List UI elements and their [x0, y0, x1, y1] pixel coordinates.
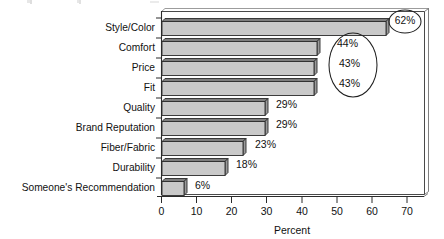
bar-quality	[162, 99, 268, 116]
category-label: Quality	[123, 102, 156, 113]
value-label: 43%	[339, 57, 360, 69]
value-label: 43%	[339, 77, 360, 89]
cropped-heading-remnant	[27, 0, 159, 4]
value-label: 29%	[276, 118, 297, 130]
category-label: Durability	[113, 162, 156, 173]
category-label: Brand Reputation	[76, 122, 155, 133]
x-tick-label: 30	[261, 205, 273, 217]
bar-comfort	[162, 39, 320, 56]
category-label: Style/Color	[105, 22, 155, 33]
bar-fit	[162, 79, 317, 96]
bar-brand-reputation	[162, 119, 268, 136]
x-tick-label: 40	[296, 205, 308, 217]
category-label: Price	[132, 62, 156, 73]
category-label: Fiber/Fabric	[101, 142, 155, 153]
category-label: Fit	[144, 82, 155, 93]
x-tick-label: 70	[401, 205, 413, 217]
x-tick-label: 60	[366, 205, 378, 217]
bar-fiber-fabric	[162, 139, 246, 156]
value-label: 6%	[195, 179, 210, 191]
x-tick-label: 20	[226, 205, 238, 217]
x-tick-label: 10	[191, 205, 203, 217]
value-label: 29%	[276, 98, 297, 110]
bar-chart-figure: Style/Color Comfort Price Fit Quality Br…	[0, 0, 444, 239]
value-label: 62%	[395, 15, 415, 26]
value-label: 18%	[236, 158, 257, 170]
bar-durability	[162, 159, 228, 176]
chart-canvas: Style/Color Comfort Price Fit Quality Br…	[0, 0, 444, 239]
bar-price	[162, 59, 317, 76]
y-axis-category-labels: Style/Color Comfort Price Fit Quality Br…	[22, 22, 156, 193]
y-axis	[156, 11, 162, 195]
x-axis: 0 10 20 30 40 50 60 70 Percent	[157, 194, 428, 237]
x-tick-label: 0	[159, 205, 165, 217]
x-tick-label: 50	[331, 205, 343, 217]
value-label: 23%	[255, 138, 276, 150]
bar-someones-recommendation	[162, 179, 187, 196]
category-label: Someone's Recommendation	[22, 182, 155, 193]
category-label: Comfort	[119, 42, 155, 53]
x-axis-title: Percent	[274, 224, 310, 236]
